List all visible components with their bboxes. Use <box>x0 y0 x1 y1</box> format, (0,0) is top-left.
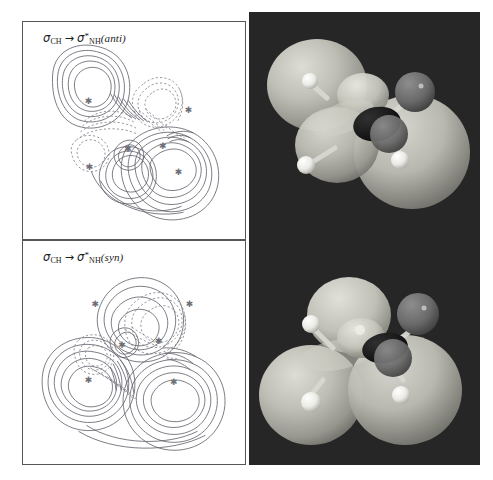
atom-hydrogen-upper <box>302 73 318 89</box>
atom-hydrogen-lower-left <box>301 392 321 412</box>
donor-subscript: CH <box>50 256 61 265</box>
svg-text:✱: ✱ <box>118 340 125 350</box>
atom-hydrogen-upper-left <box>302 315 320 333</box>
figure-root: ✱ ✱ ✱ ✱ ✱ ✱ σCH→σ*NH(anti) <box>0 0 493 480</box>
atom-hydrogen-lower-right <box>392 386 410 404</box>
isosurface-svg-anti <box>249 12 480 240</box>
atom-nitrogen-front <box>370 115 408 153</box>
svg-text:✱: ✱ <box>186 299 193 309</box>
svg-text:✱: ✱ <box>170 377 177 387</box>
orbital-highlight <box>355 325 365 335</box>
panel-label-syn: σCH→σ*NH(syn) <box>43 250 123 265</box>
svg-text:✱: ✱ <box>86 162 93 172</box>
svg-text:✱: ✱ <box>85 96 92 106</box>
arrow-glyph: → <box>62 251 77 264</box>
arrow-glyph: → <box>62 32 77 45</box>
svg-text:✱: ✱ <box>155 336 162 346</box>
atom-nitrogen-highlight <box>419 84 424 89</box>
svg-text:✱: ✱ <box>92 299 99 309</box>
positive-contours-syn <box>42 278 225 451</box>
isosurface-render-anti <box>249 12 480 240</box>
conformer-label: (anti) <box>101 32 126 44</box>
atom-nitrogen-front <box>374 339 412 377</box>
conformer-label: (syn) <box>101 251 124 263</box>
acceptor-subscript: NH <box>89 37 101 46</box>
negative-contours-anti <box>71 78 184 172</box>
positive-contours-anti <box>52 45 218 220</box>
contour-plot-anti: ✱ ✱ ✱ ✱ ✱ ✱ <box>23 22 245 239</box>
contour-plot-syn: ✱ ✱ ✱ ✱ ✱ ✱ <box>23 241 245 464</box>
contour-panel-syn: ✱ ✱ ✱ ✱ ✱ ✱ σCH→σ*NH(syn) <box>22 240 246 465</box>
svg-text:✱: ✱ <box>175 167 182 177</box>
acceptor-subscript: NH <box>89 256 101 265</box>
contour-panel-anti: ✱ ✱ ✱ ✱ ✱ ✱ σCH→σ*NH(anti) <box>22 21 246 240</box>
svg-text:✱: ✱ <box>124 144 131 154</box>
atom-hydrogen-lower-right <box>391 151 409 169</box>
isosurface-render-syn <box>249 240 480 465</box>
atom-nitrogen <box>395 72 435 112</box>
isosurface-svg-syn <box>249 240 480 465</box>
atom-nitrogen-highlight <box>422 306 427 311</box>
svg-text:✱: ✱ <box>185 105 192 115</box>
atom-nitrogen <box>397 293 439 335</box>
donor-subscript: CH <box>50 37 61 46</box>
svg-text:✱: ✱ <box>85 375 92 385</box>
svg-text:✱: ✱ <box>159 141 166 151</box>
panel-label-anti: σCH→σ*NH(anti) <box>43 31 126 46</box>
atom-hydrogen-lower-left <box>297 156 315 174</box>
